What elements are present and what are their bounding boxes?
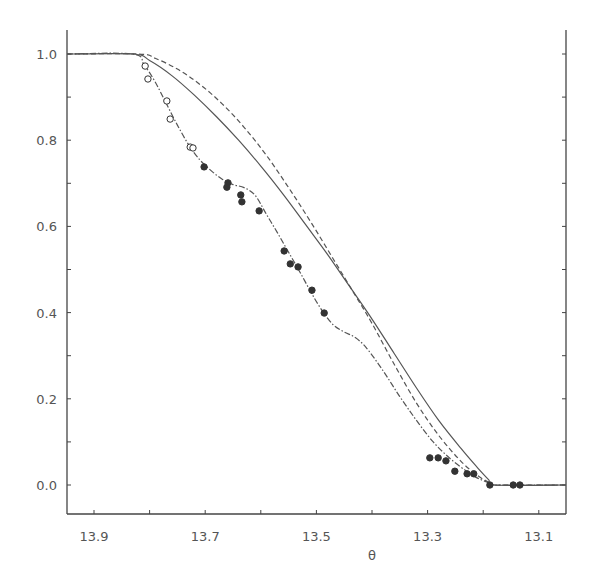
axis-tick-labels: 13.913.713.513.313.10.00.20.40.60.81.0 (36, 47, 553, 544)
axes (67, 30, 566, 514)
filled-circle-marker (238, 192, 244, 198)
y-tick-label: 1.0 (36, 47, 57, 62)
curves (67, 53, 566, 485)
filled-circle-marker (487, 482, 493, 488)
x-tick-label: 13.9 (80, 529, 109, 544)
filled-circle-marker (452, 468, 458, 474)
x-tick-label: 13.3 (413, 529, 442, 544)
filled-circle-marker (443, 458, 449, 464)
filled-circle-marker (517, 482, 523, 488)
x-tick-label: 13.5 (302, 529, 331, 544)
y-tick-label: 0.4 (36, 306, 57, 321)
x-tick-label: 13.7 (191, 529, 220, 544)
open-circle-marker (164, 98, 170, 104)
open-circle-marker (167, 116, 173, 122)
curve-fit-dashdot (67, 53, 566, 485)
x-axis-title: θ (368, 548, 376, 563)
filled-circle-marker (287, 261, 293, 267)
y-tick-label: 0.0 (36, 478, 57, 493)
y-tick-label: 0.6 (36, 219, 57, 234)
data-markers (142, 63, 523, 488)
curve-theory-dashed (67, 54, 566, 485)
filled-circle-marker (239, 199, 245, 205)
filled-circle-marker (435, 455, 441, 461)
open-circle-marker (190, 145, 196, 151)
open-circle-marker (142, 63, 148, 69)
filled-circle-marker (295, 264, 301, 270)
filled-circle-marker (309, 287, 315, 293)
filled-circle-marker (321, 310, 327, 316)
filled-circle-marker (281, 248, 287, 254)
filled-circle-marker (427, 455, 433, 461)
filled-circle-marker (224, 184, 230, 190)
filled-circle-marker (256, 208, 262, 214)
axis-ticks (67, 54, 566, 514)
y-tick-label: 0.2 (36, 392, 57, 407)
y-tick-label: 0.8 (36, 133, 57, 148)
filled-circle-marker (471, 471, 477, 477)
filled-circle-marker (464, 471, 470, 477)
filled-circle-marker (201, 164, 207, 170)
curve-theory-solid (67, 54, 566, 486)
filled-circle-marker (510, 482, 516, 488)
x-tick-label: 13.1 (524, 529, 553, 544)
open-circle-marker (145, 76, 151, 82)
chart: 13.913.713.513.313.10.00.20.40.60.81.0 θ (0, 0, 599, 582)
